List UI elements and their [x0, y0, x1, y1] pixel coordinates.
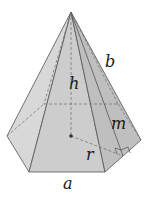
label-m: m: [111, 114, 126, 133]
label-a: a: [63, 174, 73, 193]
label-r: r: [86, 145, 95, 164]
label-b: b: [105, 52, 115, 71]
base-center-point: [69, 134, 73, 138]
label-h: h: [69, 74, 79, 93]
hexagonal-pyramid-diagram: h b m r a: [0, 0, 151, 199]
